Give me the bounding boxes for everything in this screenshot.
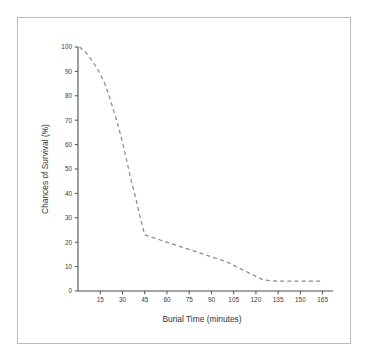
y-tick-label: 0 bbox=[68, 287, 72, 294]
figure-root: 0102030405060708090100 15304560759010512… bbox=[0, 0, 369, 360]
x-axis-title: Burial Time (minutes) bbox=[162, 314, 241, 324]
y-tick-label: 90 bbox=[65, 68, 73, 75]
x-tick-label: 45 bbox=[141, 296, 149, 303]
y-tick-label: 10 bbox=[65, 263, 73, 270]
y-tick-label: 20 bbox=[65, 239, 73, 246]
chart-plot-area: 0102030405060708090100 15304560759010512… bbox=[0, 0, 369, 360]
y-axis-title: Chances of Survival (%) bbox=[40, 124, 50, 214]
x-tick-label: 135 bbox=[273, 296, 284, 303]
y-tick-label: 40 bbox=[65, 190, 73, 197]
y-tick-label: 70 bbox=[65, 117, 73, 124]
survival-curve-line bbox=[79, 47, 322, 281]
y-tick-label: 100 bbox=[61, 43, 72, 50]
x-tick-label: 30 bbox=[119, 296, 127, 303]
x-tick-label: 75 bbox=[186, 296, 194, 303]
y-tick-label: 30 bbox=[65, 214, 73, 221]
y-axis: 0102030405060708090100 bbox=[61, 43, 78, 294]
x-tick-label: 150 bbox=[295, 296, 306, 303]
data-series-group bbox=[79, 47, 322, 281]
x-tick-label: 120 bbox=[251, 296, 262, 303]
x-tick-label: 105 bbox=[228, 296, 239, 303]
y-tick-label: 50 bbox=[65, 165, 73, 172]
x-axis: 153045607590105120135150165 bbox=[78, 291, 333, 303]
x-tick-label: 15 bbox=[97, 296, 105, 303]
y-tick-label: 80 bbox=[65, 92, 73, 99]
x-tick-label: 90 bbox=[208, 296, 216, 303]
x-tick-label: 165 bbox=[317, 296, 328, 303]
y-tick-label: 60 bbox=[65, 141, 73, 148]
x-tick-label: 60 bbox=[163, 296, 171, 303]
